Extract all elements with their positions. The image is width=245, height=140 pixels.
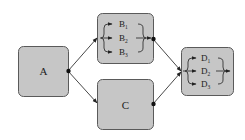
a-output-dot xyxy=(66,69,70,73)
b-output-dot xyxy=(151,37,155,41)
node-b: B1 B2 B3 xyxy=(98,14,154,64)
node-c: C xyxy=(98,80,154,130)
d3-sub: 3 xyxy=(208,84,211,90)
node-c-label: C xyxy=(122,99,129,111)
b3-sub: 3 xyxy=(125,52,128,58)
node-a: A xyxy=(19,47,69,97)
flow-diagram: A B1 B2 B3 C D1 D2 D3 xyxy=(0,0,245,140)
edge-c-d xyxy=(153,72,181,104)
d2-sub: 2 xyxy=(208,71,211,77)
b2-sub: 2 xyxy=(125,38,128,44)
node-d: D1 D2 D3 xyxy=(182,48,234,96)
c-output-dot xyxy=(151,102,155,106)
b1-sub: 1 xyxy=(125,24,128,30)
edge-a-c xyxy=(68,71,97,103)
d1-sub: 1 xyxy=(208,58,211,64)
node-a-label: A xyxy=(40,65,48,77)
edge-a-b xyxy=(68,38,97,71)
edge-b-d xyxy=(153,39,181,71)
